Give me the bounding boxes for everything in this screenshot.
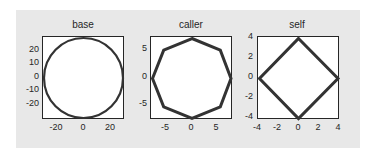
ytick: -20 <box>15 98 39 108</box>
axes-caller <box>150 36 232 119</box>
ytick: 4 <box>229 31 253 41</box>
ytick: -4 <box>229 111 253 121</box>
plot-title-caller: caller <box>141 19 241 30</box>
xtick: 0 <box>179 122 203 132</box>
ytick: 0 <box>229 71 253 81</box>
diamond-plot <box>258 37 340 120</box>
ytick: 10 <box>15 57 39 67</box>
circle-plot <box>43 37 125 120</box>
ytick: -10 <box>15 84 39 94</box>
octagon-plot <box>151 37 233 120</box>
xtick: 4 <box>326 122 350 132</box>
xtick: 20 <box>98 122 122 132</box>
ytick: 2 <box>229 51 253 61</box>
ytick: -5 <box>123 98 147 108</box>
xtick: 5 <box>204 122 228 132</box>
plot-title-self: self <box>247 19 347 30</box>
xtick: 0 <box>71 122 95 132</box>
ytick: 20 <box>15 44 39 54</box>
axes-base <box>42 36 124 119</box>
xtick: -5 <box>153 122 177 132</box>
ytick: 5 <box>123 43 147 53</box>
axes-self <box>257 36 339 119</box>
ytick: 0 <box>15 71 39 81</box>
ytick: 0 <box>123 71 147 81</box>
xtick: -20 <box>44 122 68 132</box>
plot-title-base: base <box>33 19 133 30</box>
ytick: -2 <box>229 91 253 101</box>
